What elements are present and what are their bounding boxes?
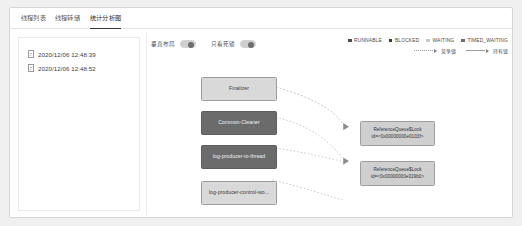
- legend-label: TIMED_WAITING: [467, 38, 508, 43]
- solid-arrow-icon: [466, 49, 490, 53]
- status-swatch-icon: [389, 39, 393, 43]
- legend-edge-row: 竞争锁 持有锁: [348, 47, 508, 54]
- deadlock-only-toggle[interactable]: [240, 40, 256, 48]
- edge-io-thread-lock2: [272, 147, 344, 161]
- node-label: log-producer-control-wo...: [207, 189, 271, 196]
- tab-label: 统计分析图: [90, 14, 121, 21]
- tab-thread-list[interactable]: 线程列表: [21, 13, 46, 28]
- tab-label: 线程转储: [55, 14, 80, 21]
- edge-finalizer-lock1: [272, 86, 344, 126]
- vertical-layout-toggle[interactable]: [180, 40, 196, 48]
- thread-node-log-producer-io-thread[interactable]: log-producer-io-thread: [201, 145, 277, 169]
- legend-label: 竞争锁: [441, 47, 456, 54]
- toggle-label: 只看死锁: [211, 40, 235, 48]
- legend-item-waiting: WAITING: [426, 38, 454, 43]
- edge-control-worker: [272, 180, 342, 200]
- legend-item-blocked: BLOCKED: [389, 38, 420, 43]
- sidebar-item-label: 2020/12/06 12:48:39: [38, 51, 96, 58]
- legend-item-contend-lock: 竞争锁: [414, 47, 456, 54]
- thread-node-log-producer-control-worker[interactable]: log-producer-control-wo...: [201, 181, 277, 205]
- node-label: Finalizer: [227, 85, 251, 92]
- legend-item-timed-waiting: TIMED_WAITING: [461, 38, 508, 43]
- thread-node-common-cleaner[interactable]: Common-Cleaner: [201, 111, 277, 135]
- node-label: Common-Cleaner: [216, 119, 262, 126]
- legend-status-row: RUNNABLE BLOCKED WAITING TIMED_WAITING: [348, 38, 508, 43]
- lock-node-reference-queue-lock-1[interactable]: ReferenceQueue$Lock id=<0x00000000e0103f…: [360, 121, 435, 146]
- document-icon: [28, 64, 34, 72]
- dependency-graph: Finalizer Common-Cleaner log-producer-io…: [147, 59, 512, 217]
- lock-title: ReferenceQueue$Lock: [371, 167, 423, 173]
- tab-statistics-graph[interactable]: 统计分析图: [90, 13, 121, 28]
- app-window: 线程列表 线程转储 统计分析图 2020/12/06 12:48:39 2020…: [9, 7, 513, 218]
- lock-title: ReferenceQueue$Lock: [371, 127, 423, 133]
- content-area: 2020/12/06 12:48:39 2020/12/06 12:48:52 …: [10, 29, 512, 217]
- status-swatch-icon: [461, 39, 465, 43]
- document-icon: [28, 50, 34, 58]
- dashed-arrow-icon: [414, 49, 438, 53]
- toggle-group-deadlock-only: 只看死锁: [211, 40, 256, 48]
- toggle-label: 垂直布局: [151, 40, 175, 48]
- node-label: log-producer-io-thread: [211, 153, 267, 160]
- tab-label: 线程列表: [21, 14, 46, 21]
- legend-label: WAITING: [432, 38, 454, 43]
- tab-thread-dump[interactable]: 线程转储: [55, 13, 80, 28]
- lock-id: id=<0x00000000e019b0>: [369, 174, 426, 180]
- toggle-knob: [248, 42, 254, 48]
- legend: RUNNABLE BLOCKED WAITING TIMED_WAITING: [348, 38, 508, 54]
- legend-label: BLOCKED: [395, 38, 419, 43]
- toggle-knob: [188, 42, 194, 48]
- sidebar-item-label: 2020/12/06 12:48:52: [38, 65, 96, 72]
- tab-bar: 线程列表 线程转储 统计分析图: [10, 8, 512, 29]
- legend-label: RUNNABLE: [354, 38, 382, 43]
- legend-item-runnable: RUNNABLE: [348, 38, 382, 43]
- edge-arrowheads: [343, 123, 349, 165]
- lock-id: id=<0x00000000e0103f>: [369, 134, 425, 140]
- lock-node-reference-queue-lock-2[interactable]: ReferenceQueue$Lock id=<0x00000000e019b0…: [360, 161, 435, 186]
- status-swatch-icon: [348, 39, 352, 43]
- status-swatch-icon: [426, 39, 430, 43]
- snapshot-list-panel: 2020/12/06 12:48:39 2020/12/06 12:48:52: [18, 37, 140, 211]
- legend-item-hold-lock: 持有锁: [466, 47, 508, 54]
- graph-panel: 垂直布局 只看死锁 RUNNABLE BLOCKED: [147, 29, 512, 217]
- sidebar-item-snapshot-2[interactable]: 2020/12/06 12:48:52: [28, 62, 96, 74]
- toggle-group-vertical-layout: 垂直布局: [151, 40, 196, 48]
- sidebar-item-snapshot-1[interactable]: 2020/12/06 12:48:39: [28, 48, 96, 60]
- legend-label: 持有锁: [493, 47, 508, 54]
- thread-node-finalizer[interactable]: Finalizer: [201, 77, 277, 101]
